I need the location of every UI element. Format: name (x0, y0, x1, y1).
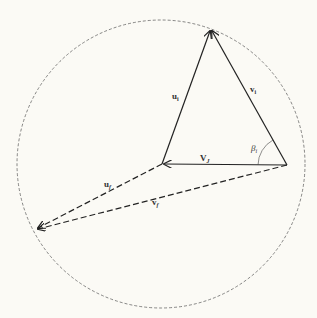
label-u-i: ui (172, 91, 179, 102)
vector-u-f (38, 164, 162, 228)
velocity-diagram: ui vi βi VJ uf vf (0, 0, 317, 318)
label-beta-i: βi (250, 143, 257, 154)
vector-u-i (162, 31, 210, 164)
label-V-J: VJ (200, 153, 211, 164)
vector-V-J (164, 164, 287, 165)
vector-v-f (38, 165, 287, 229)
angle-arc-beta-i (258, 140, 273, 165)
vector-v-i (212, 31, 287, 165)
label-v-f: vf (152, 197, 160, 208)
label-u-f: uf (104, 179, 112, 190)
label-v-i: vi (250, 84, 257, 95)
